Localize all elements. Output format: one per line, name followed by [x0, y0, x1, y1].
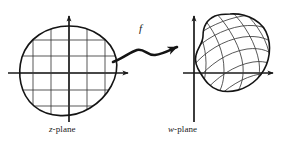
conformal-mapping-figure [0, 0, 285, 147]
z-plane-label: z-plane [49, 124, 76, 134]
map-function-label: f [139, 22, 142, 34]
map-connector [113, 47, 177, 62]
w-plane-label: w-plane [168, 124, 197, 134]
w-plane-label-suffix: -plane [174, 124, 197, 134]
w-plane-panel [183, 10, 284, 122]
z-plane-label-suffix: -plane [53, 124, 76, 134]
wavy-arrow [113, 47, 177, 62]
